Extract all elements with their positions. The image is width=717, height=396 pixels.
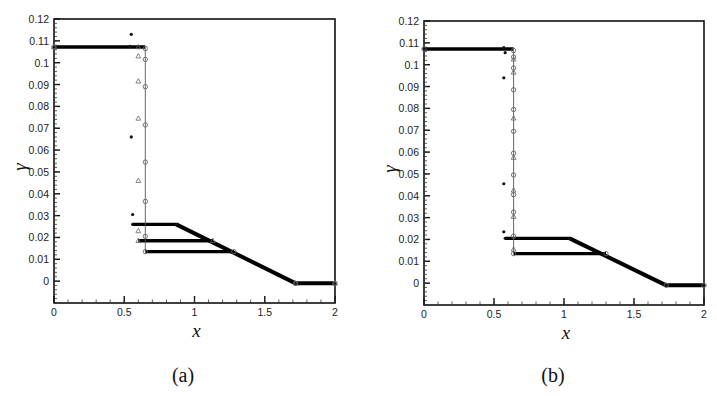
star-marker	[502, 76, 505, 79]
y-tick-label: 0.06	[399, 146, 420, 158]
star-marker	[504, 51, 507, 54]
star-marker	[665, 284, 668, 287]
plot-frame	[424, 21, 704, 305]
chart-panel-b: 00.010.020.030.040.050.060.070.080.090.1…	[379, 15, 707, 343]
y-tick-label: 0.08	[399, 102, 420, 114]
y-tick-label: 0.11	[399, 37, 419, 49]
y-tick-label: 0.07	[29, 122, 50, 134]
triangle-marker	[136, 54, 141, 58]
y-axis-title: γ	[379, 165, 400, 173]
plot-frame	[54, 19, 335, 303]
x-axis-title: x	[191, 320, 201, 341]
y-tick-label: 0.05	[399, 168, 420, 180]
x-tick-label: 1.5	[627, 308, 642, 320]
x-tick-label: 0	[421, 308, 427, 320]
star-marker	[131, 223, 134, 226]
star-marker	[131, 213, 134, 216]
y-tick-label: 0.03	[29, 210, 50, 222]
x-tick-label: 2	[701, 308, 707, 320]
y-tick-label: 0.04	[399, 190, 420, 202]
figure: 00.010.020.030.040.050.060.070.080.090.1…	[0, 0, 717, 396]
y-tick-label: 0.09	[29, 79, 50, 91]
y-tick-label: 0.04	[29, 188, 50, 200]
y-tick-label: 0.09	[399, 81, 420, 93]
y-tick-label: 0.07	[399, 124, 420, 136]
caption-b: (b)	[541, 364, 564, 387]
x-tick-label: 2	[332, 306, 338, 318]
x-tick-label: 1	[192, 306, 198, 318]
y-tick-label: 0.01	[399, 255, 420, 267]
star-marker	[130, 33, 133, 36]
x-tick-label: 0.5	[117, 306, 132, 318]
star-marker	[130, 135, 133, 138]
y-tick-label: 0.08	[29, 100, 50, 112]
triangle-marker	[136, 79, 141, 83]
y-axis-title: γ	[9, 163, 30, 171]
y-tick-label: 0.02	[399, 233, 420, 245]
y-tick-label: 0.12	[399, 15, 420, 27]
star-marker	[502, 182, 505, 185]
caption-a: (a)	[172, 364, 194, 387]
y-tick-label: 0.06	[29, 144, 50, 156]
data-band	[570, 238, 704, 285]
y-tick-label: 0.12	[29, 13, 50, 25]
x-axis-title: x	[561, 322, 571, 343]
x-tick-label: 1	[561, 308, 567, 320]
star-marker	[568, 237, 571, 240]
y-tick-label: 0.05	[29, 166, 50, 178]
y-tick-label: 0.02	[29, 231, 50, 243]
y-tick-label: 0	[43, 275, 49, 287]
star-marker	[504, 237, 507, 240]
y-tick-label: 0.01	[29, 253, 50, 265]
star-marker	[702, 284, 705, 287]
star-marker	[422, 47, 425, 50]
y-tick-label: 0.03	[399, 212, 420, 224]
triangle-marker	[136, 178, 141, 182]
chart-panel-a: 00.010.020.030.040.050.060.070.080.090.1…	[9, 13, 338, 341]
x-tick-label: 0	[51, 306, 57, 318]
y-tick-label: 0.11	[29, 35, 49, 47]
star-marker	[502, 230, 505, 233]
triangle-marker	[136, 228, 141, 232]
star-marker	[175, 223, 178, 226]
x-tick-label: 0.5	[487, 308, 502, 320]
x-tick-label: 1.5	[257, 306, 272, 318]
y-tick-label: 0.1	[34, 57, 49, 69]
y-tick-label: 0	[413, 277, 419, 289]
star-marker	[128, 45, 131, 48]
y-tick-label: 0.1	[404, 59, 419, 71]
star-marker	[502, 46, 505, 49]
data-band	[176, 224, 335, 283]
triangle-marker	[136, 116, 141, 120]
